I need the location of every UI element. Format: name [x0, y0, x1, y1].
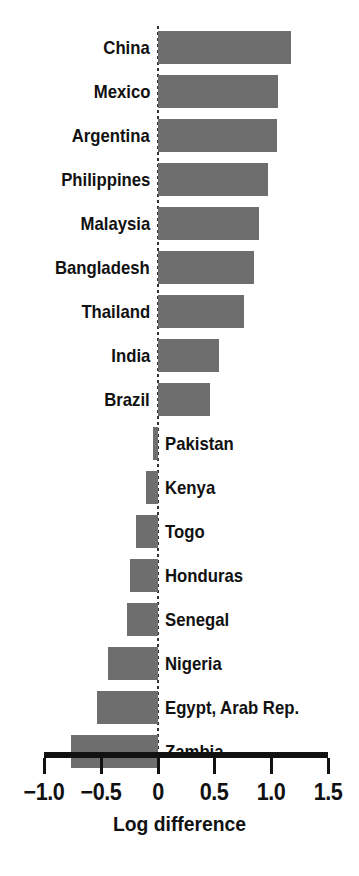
bar-row: Togo — [0, 510, 359, 554]
x-axis-line — [44, 752, 328, 758]
bar — [158, 163, 268, 196]
bar-row: Argentina — [0, 114, 359, 158]
bar-row: China — [0, 26, 359, 70]
category-label: Malaysia — [80, 207, 150, 240]
category-label: Bangladesh — [55, 251, 150, 284]
category-label: Togo — [165, 515, 205, 548]
x-axis-tick — [157, 758, 160, 774]
category-label: Pakistan — [165, 427, 234, 460]
bar — [153, 427, 158, 460]
bar — [158, 75, 278, 108]
x-axis-tick-label: 1.0 — [257, 778, 286, 806]
bar — [158, 207, 259, 240]
bar-row: Egypt, Arab Rep. — [0, 686, 359, 730]
x-axis-title: Log difference — [14, 812, 344, 836]
bar-row: Bangladesh — [0, 246, 359, 290]
bar-row: Philippines — [0, 158, 359, 202]
bar-row: Kenya — [0, 466, 359, 510]
category-label: Argentina — [72, 119, 150, 152]
bar-row: Thailand — [0, 290, 359, 334]
bar — [158, 383, 210, 416]
bar-row: Pakistan — [0, 422, 359, 466]
x-axis-tick-label: 1.5 — [314, 778, 343, 806]
bar-row: Brazil — [0, 378, 359, 422]
category-label: Brazil — [104, 383, 150, 416]
x-axis-tick — [270, 758, 273, 774]
bar — [108, 647, 158, 680]
category-label: China — [104, 31, 150, 64]
bar — [158, 31, 291, 64]
x-axis-tick — [213, 758, 216, 774]
category-label: Honduras — [165, 559, 243, 592]
x-axis-tick-label: 0.5 — [200, 778, 229, 806]
category-label: Egypt, Arab Rep. — [165, 691, 299, 724]
bar — [158, 339, 219, 372]
category-label: Thailand — [81, 295, 150, 328]
category-label: India — [111, 339, 150, 372]
category-label: Mexico — [93, 75, 150, 108]
bar — [146, 471, 157, 504]
bar-row: Senegal — [0, 598, 359, 642]
category-label: Philippines — [61, 163, 150, 196]
bar — [158, 119, 277, 152]
bar — [97, 691, 157, 724]
x-axis-tick — [43, 758, 46, 774]
x-axis-tick-label: −0.5 — [80, 778, 121, 806]
bar — [158, 295, 244, 328]
bar — [127, 603, 158, 636]
category-label: Nigeria — [165, 647, 222, 680]
bar-row: Mexico — [0, 70, 359, 114]
x-axis-tick — [327, 758, 330, 774]
bar — [158, 251, 255, 284]
category-label: Senegal — [165, 603, 229, 636]
bar-row: India — [0, 334, 359, 378]
bar-row: Malaysia — [0, 202, 359, 246]
category-label: Kenya — [165, 471, 215, 504]
bar-row: Honduras — [0, 554, 359, 598]
bar-row: Nigeria — [0, 642, 359, 686]
bar — [136, 515, 158, 548]
bar — [130, 559, 157, 592]
bar-chart-figure: ChinaMexicoArgentinaPhilippinesMalaysiaB… — [0, 0, 359, 876]
x-axis-tick-label: −1.0 — [24, 778, 65, 806]
x-axis-tick-label: 0 — [152, 778, 164, 806]
plot-area: ChinaMexicoArgentinaPhilippinesMalaysiaB… — [0, 0, 359, 760]
x-axis-tick — [100, 758, 103, 774]
